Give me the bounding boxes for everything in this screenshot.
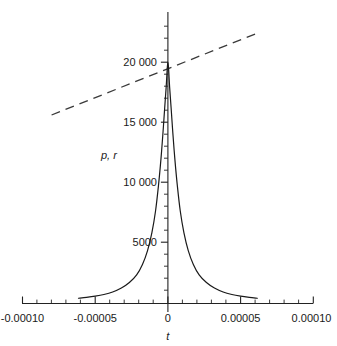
x-tick-label: -0.00005 (73, 312, 116, 324)
x-tick-label: -0.00010 (1, 312, 44, 324)
x-tick-label: 0.00005 (221, 312, 261, 324)
series-r-dashed-line (52, 34, 256, 115)
plot-canvas: -0.00010 -0.00005 0 0.00005 0.00010 t (0, 0, 337, 346)
series-group (52, 34, 258, 298)
y-axis-label: p, r (100, 149, 118, 161)
y-axis-group: 20 000 15 000 10 000 5000 p, r (100, 12, 168, 312)
x-axis-group: -0.00010 -0.00005 0 0.00005 0.00010 t (1, 297, 332, 343)
x-tick-label: 0 (165, 312, 171, 324)
x-tick-label: 0.00010 (292, 312, 332, 324)
x-axis-label: t (166, 330, 170, 342)
chart-screenshot: -0.00010 -0.00005 0 0.00005 0.00010 t (0, 0, 337, 346)
y-tick-label: 20 000 (123, 56, 157, 68)
y-tick-label: 5000 (133, 236, 157, 248)
y-tick-label: 15 000 (123, 116, 157, 128)
y-tick-label: 10 000 (123, 176, 157, 188)
